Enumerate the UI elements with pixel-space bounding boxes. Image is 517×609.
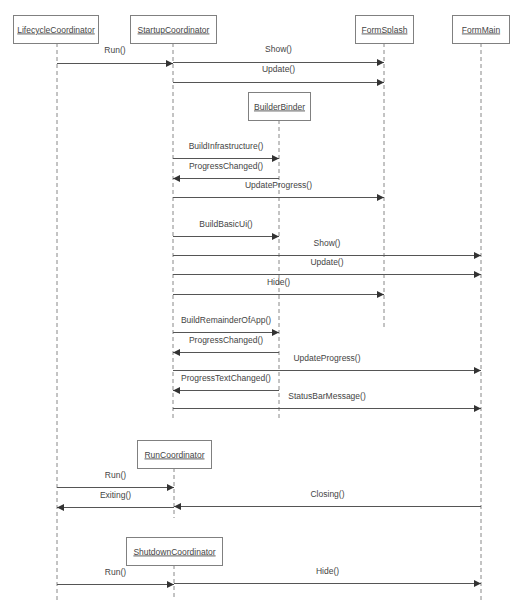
message-label: Run(): [105, 470, 126, 480]
participant-lifecycle: LifecycleCoordinator: [14, 16, 99, 44]
arrowhead-icon: [474, 580, 481, 587]
participant-label: LifecycleCoordinator: [17, 25, 95, 35]
message: Update(): [173, 64, 384, 86]
message-label: Show(): [314, 238, 341, 248]
arrowhead-icon: [167, 581, 174, 588]
message: BuildBasicUi(): [173, 219, 279, 240]
message: Run(): [57, 45, 173, 67]
message: Run(): [57, 470, 174, 491]
arrowhead-icon: [272, 155, 279, 162]
message-label: BuildBasicUi(): [199, 219, 253, 229]
participant-formsplash: FormSplash: [356, 16, 414, 44]
message: Hide(): [174, 566, 481, 587]
arrowhead-icon: [474, 271, 481, 278]
message-label: StatusBarMessage(): [288, 391, 366, 401]
message: Closing(): [174, 489, 481, 510]
messages: Run()Show()Update()BuildInfrastructure()…: [57, 44, 481, 588]
message: Show(): [173, 44, 384, 66]
participant-runcoord: RunCoordinator: [138, 441, 212, 469]
message-label: Update(): [262, 64, 295, 74]
message-label: UpdateProgress(): [245, 180, 312, 190]
participant-builderbinder: BuilderBinder: [249, 93, 311, 121]
message-label: Exiting(): [100, 490, 131, 500]
arrowhead-icon: [377, 79, 384, 86]
participant-label: ShutdownCoordinator: [133, 547, 215, 557]
arrowhead-icon: [173, 349, 180, 356]
message-label: Hide(): [316, 566, 339, 576]
message: StatusBarMessage(): [173, 391, 481, 412]
arrowhead-icon: [57, 504, 64, 511]
participant-label: FormSplash: [362, 25, 408, 35]
message-label: Hide(): [267, 277, 290, 287]
arrowhead-icon: [377, 194, 384, 201]
message-label: Update(): [310, 257, 343, 267]
arrowhead-icon: [167, 484, 174, 491]
message-label: ProgressChanged(): [189, 161, 263, 171]
message-label: BuildRemainderOfApp(): [181, 315, 271, 325]
participant-shutdowncoord: ShutdownCoordinator: [127, 538, 223, 566]
participant-label: FormMain: [462, 25, 501, 35]
arrowhead-icon: [377, 59, 384, 66]
message-label: Closing(): [310, 489, 344, 499]
message: Update(): [173, 257, 481, 278]
sequence-diagram: Run()Show()Update()BuildInfrastructure()…: [0, 0, 517, 609]
arrowhead-icon: [173, 387, 180, 394]
message-label: ProgressTextChanged(): [181, 373, 271, 383]
participant-label: RunCoordinator: [144, 450, 204, 460]
message-label: Show(): [265, 44, 292, 54]
message: BuildInfrastructure(): [173, 141, 279, 162]
participant-label: StartupCoordinator: [138, 25, 210, 35]
message: BuildRemainderOfApp(): [173, 315, 279, 336]
participant-startup: StartupCoordinator: [131, 16, 217, 44]
message: ProgressTextChanged(): [173, 373, 279, 394]
message: UpdateProgress(): [173, 353, 481, 374]
message-label: Run(): [104, 45, 125, 55]
participant-formmain: FormMain: [453, 16, 510, 44]
arrowhead-icon: [474, 405, 481, 412]
message: Hide(): [173, 277, 384, 298]
message-label: UpdateProgress(): [293, 353, 360, 363]
arrowhead-icon: [377, 291, 384, 298]
arrowhead-icon: [166, 60, 173, 67]
message: Run(): [57, 567, 174, 588]
participant-label: BuilderBinder: [254, 102, 305, 112]
message: ProgressChanged(): [173, 161, 279, 182]
message: ProgressChanged(): [173, 335, 279, 356]
message-label: Run(): [105, 567, 126, 577]
message-label: BuildInfrastructure(): [189, 141, 264, 151]
arrowhead-icon: [272, 329, 279, 336]
message: Exiting(): [57, 490, 174, 511]
arrowhead-icon: [474, 252, 481, 259]
arrowhead-icon: [173, 175, 180, 182]
message: Show(): [173, 238, 481, 259]
arrowhead-icon: [474, 367, 481, 374]
arrowhead-icon: [174, 503, 181, 510]
message-label: ProgressChanged(): [189, 335, 263, 345]
participants: LifecycleCoordinatorStartupCoordinatorFo…: [14, 16, 510, 566]
arrowhead-icon: [272, 233, 279, 240]
